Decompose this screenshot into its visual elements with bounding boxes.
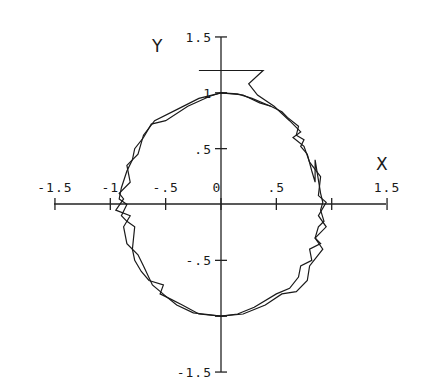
x-axis: -1.5-1-.50.51.5	[37, 180, 400, 210]
x-axis-label: X	[376, 154, 388, 174]
y-tick-label: -.5	[186, 253, 212, 268]
circle-trajectory-plot: -1.5-1-.50.51.5 1.51.5-.5-1.5 X Y	[0, 0, 426, 389]
y-axis: 1.51.5-.5-1.5	[177, 30, 227, 380]
x-tick-label: -1	[101, 180, 119, 195]
x-tick-label: -.5	[152, 180, 178, 195]
x-tick-label: .5	[268, 180, 286, 195]
x-tick-label: 1.5	[374, 180, 400, 195]
y-tick-label: 1.5	[186, 30, 212, 45]
y-tick-label: .5	[194, 142, 212, 157]
y-axis-label: Y	[151, 36, 163, 56]
y-tick-label: -1.5	[177, 365, 212, 380]
x-tick-label: -1.5	[37, 180, 72, 195]
x-tick-label: 0	[213, 180, 222, 195]
